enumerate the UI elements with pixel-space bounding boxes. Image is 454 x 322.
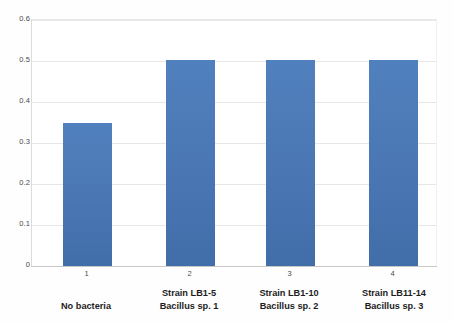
- category-label-strain-lb11-14: Strain LB11-14 Bacillus sp. 3: [342, 287, 446, 312]
- y-axis-tick-0.1: 0.1: [4, 220, 30, 228]
- y-axis-tick-0.6: 0.6: [4, 15, 30, 23]
- x-axis-tick-2: 2: [165, 269, 214, 279]
- category-label-strain-lb1-10: Strain LB1-10 Bacillus sp. 2: [239, 287, 339, 312]
- category-label-line1: No bacteria: [61, 301, 111, 311]
- x-axis-line: [31, 266, 437, 267]
- y-axis-tick-0.4: 0.4: [4, 97, 30, 105]
- x-axis-tick-3: 3: [265, 269, 314, 279]
- category-label-line1: Strain LB11-14: [362, 288, 426, 298]
- x-axis-tick-labels: 1 2 3 4: [31, 269, 437, 281]
- bar-strain-lb11-14: [369, 60, 418, 266]
- bars-layer: [32, 20, 436, 266]
- bar-strain-lb1-10: [266, 60, 315, 266]
- x-axis-tick-1: 1: [62, 269, 111, 279]
- category-label-line2: Bacillus sp. 3: [342, 300, 446, 313]
- category-label-no-bacteria: No bacteria: [36, 287, 136, 312]
- plot-area: [31, 19, 437, 266]
- y-axis-tick-0.2: 0.2: [4, 179, 30, 187]
- bar-no-bacteria: [63, 123, 112, 266]
- bar-chart-figure: 0.6 0.5 0.4 0.3 0.2 0.1 0 1 2 3 4 No bac…: [0, 0, 454, 322]
- y-axis-tick-0.3: 0.3: [4, 138, 30, 146]
- category-labels: No bacteria Strain LB1-5 Bacillus sp. 1 …: [31, 287, 445, 321]
- y-axis-tick-0: 0: [4, 261, 30, 269]
- bar-strain-lb1-5: [166, 60, 215, 266]
- category-label-line1: Strain LB1-10: [259, 288, 318, 298]
- category-label-strain-lb1-5: Strain LB1-5 Bacillus sp. 1: [139, 287, 239, 312]
- y-axis-tick-0.5: 0.5: [4, 56, 30, 64]
- category-label-line2: Bacillus sp. 1: [139, 300, 239, 313]
- y-axis-labels: 0.6 0.5 0.4 0.3 0.2 0.1 0: [2, 0, 30, 322]
- category-label-line2: Bacillus sp. 2: [239, 300, 339, 313]
- category-label-line1: Strain LB1-5: [162, 288, 216, 298]
- x-axis-tick-4: 4: [368, 269, 417, 279]
